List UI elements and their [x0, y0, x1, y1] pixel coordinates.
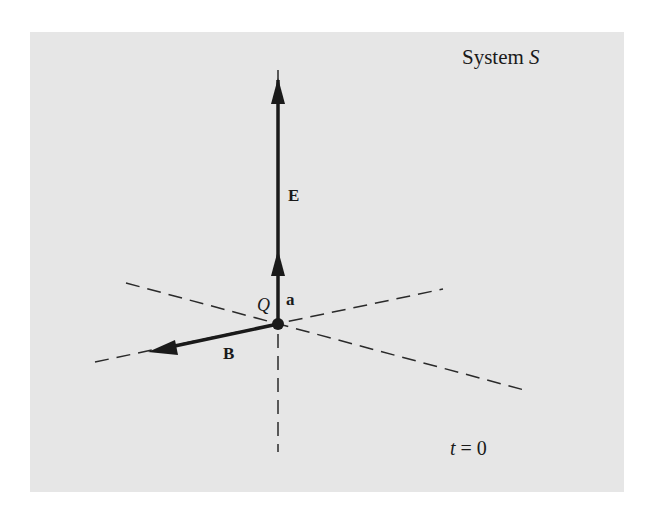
b-vector-label: B	[223, 344, 234, 364]
e-vector-arrowhead	[271, 78, 285, 104]
e-vector-label: E	[288, 186, 299, 206]
field-diagram	[0, 0, 652, 509]
axis-upper-left-to-lower-right	[126, 283, 528, 391]
system-title: System S	[462, 45, 540, 70]
point-q-label: Q	[257, 295, 270, 316]
time-label: t = 0	[450, 437, 487, 460]
point-q	[272, 318, 284, 330]
a-vector-arrowhead	[271, 250, 285, 276]
b-vector-arrowhead	[148, 340, 178, 355]
a-vector-label: a	[286, 290, 295, 310]
